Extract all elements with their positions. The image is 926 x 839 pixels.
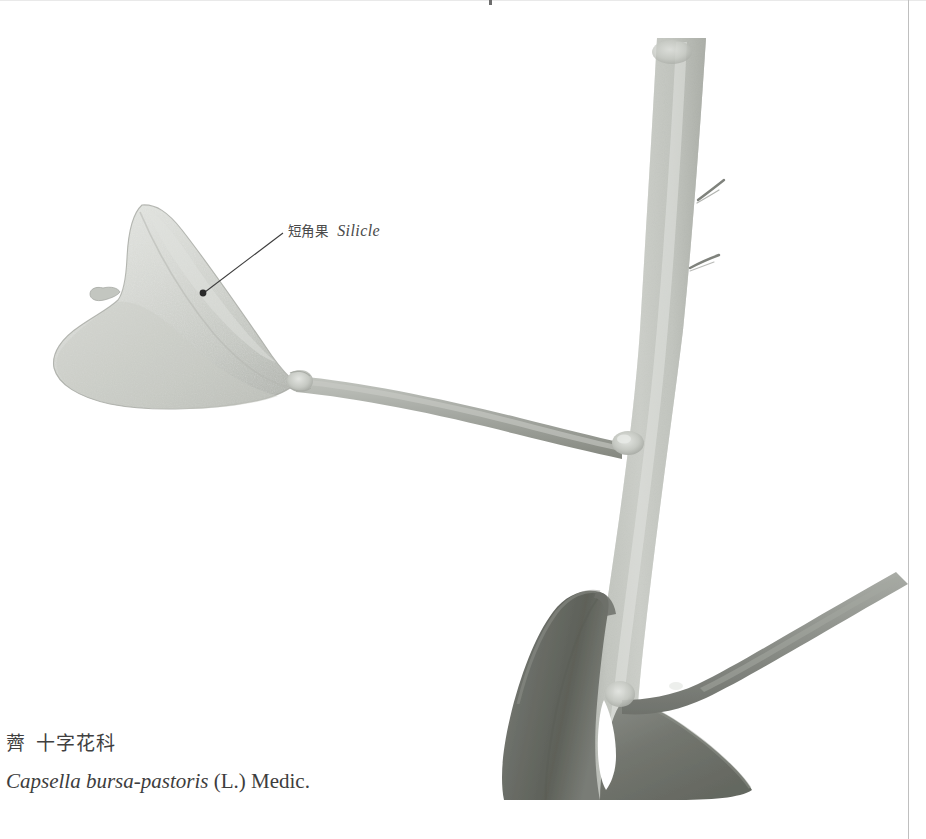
cauline-leaf-left-lobe <box>502 591 609 800</box>
plate-caption: 薺十字花科 Capsella bursa-pastoris (L.) Medic… <box>6 728 310 798</box>
silicle-leader-line <box>200 233 283 296</box>
pedicel-lower-highlight <box>700 576 902 692</box>
silicle-label-english: Silicle <box>337 222 380 239</box>
pedicel-lower <box>622 572 908 714</box>
caption-scientific-line: Capsella bursa-pastoris (L.) Medic. <box>6 764 310 798</box>
species-authority: (L.) Medic. <box>214 769 310 793</box>
silicle-annotation-label: 短角果Silicle <box>288 220 380 240</box>
specimen-photograph <box>0 0 926 839</box>
silicle-label-chinese: 短角果 <box>288 223 328 239</box>
common-name-chinese: 薺 <box>6 732 26 754</box>
species-binomial: Capsella bursa-pastoris <box>6 769 208 793</box>
silicle-fruit <box>54 205 296 409</box>
family-name-chinese: 十字花科 <box>36 732 116 754</box>
cauline-leaf-right-lobe <box>600 700 752 800</box>
stem-node-upper <box>612 431 644 455</box>
silicle-stalk-joint <box>287 370 313 392</box>
botanical-plate: 短角果Silicle 薺十字花科 Capsella bursa-pastoris… <box>0 0 926 839</box>
silicle-style-beak <box>90 287 120 300</box>
caption-chinese-line: 薺十字花科 <box>6 728 310 758</box>
dot-marker <box>200 290 207 297</box>
stem-node-top <box>652 40 692 64</box>
stem-trichomes <box>690 180 724 271</box>
